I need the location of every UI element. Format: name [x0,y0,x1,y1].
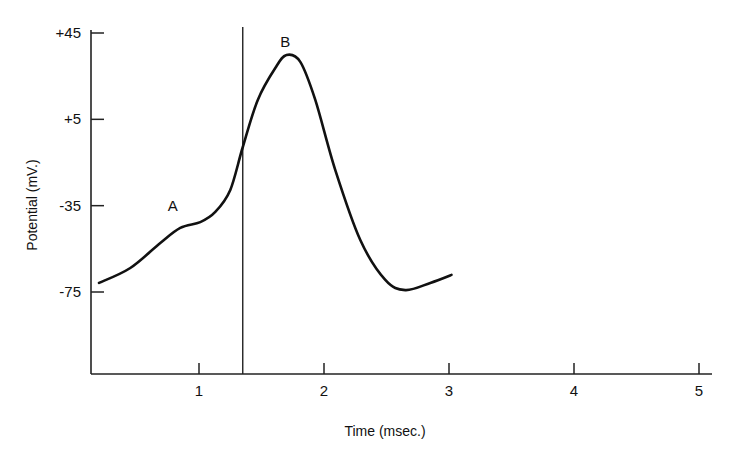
y-tick-label: -75 [59,283,81,300]
x-tick-label: 3 [445,382,453,399]
annotation-label-b: B [280,33,290,50]
y-tick-label: -35 [59,197,81,214]
x-tick-label: 2 [320,382,328,399]
x-axis-title: Time (msec.) [344,423,425,439]
action-potential-chart: +45+5-35-75 12345 AB Time (msec.) Potent… [0,0,732,454]
x-tick-label: 5 [695,382,703,399]
y-axis-title: Potential (mV.) [24,159,40,250]
series-line-action-potential [99,55,452,291]
x-tick-label: 1 [195,382,203,399]
x-tick-label: 4 [570,382,578,399]
y-tick-label: +45 [56,24,81,41]
annotation-label-a: A [168,197,178,214]
y-tick-label: +5 [64,110,81,127]
